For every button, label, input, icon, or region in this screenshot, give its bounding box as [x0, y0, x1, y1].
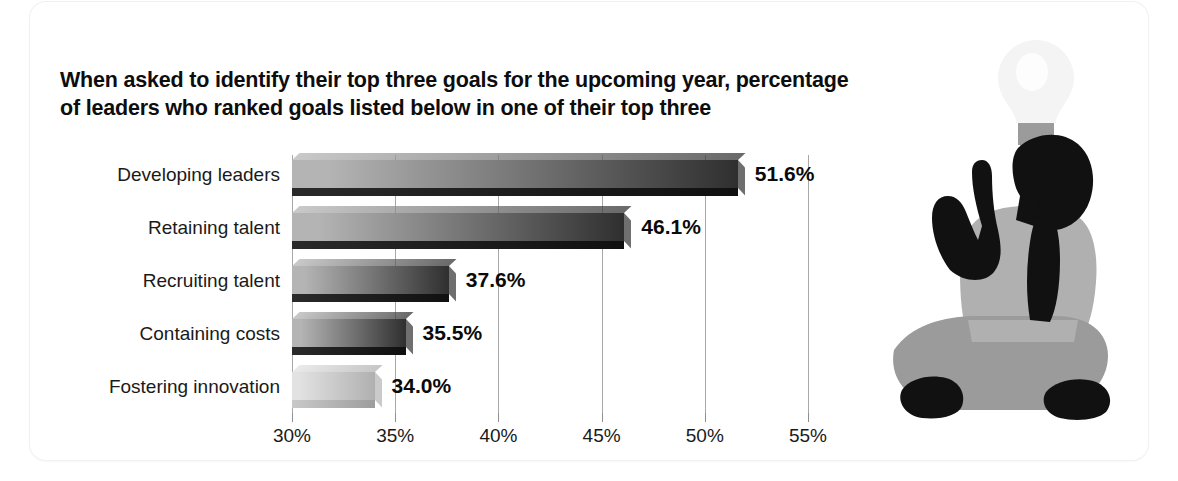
- bar-value-label: 37.6%: [466, 268, 526, 292]
- bar-top-face: [292, 259, 456, 266]
- bar-side-face: [738, 160, 745, 196]
- bar-chart: Developing leadersRetaining talentRecrui…: [0, 0, 880, 481]
- category-axis: Developing leadersRetaining talentRecrui…: [40, 0, 280, 481]
- bar-shadow: [292, 241, 624, 249]
- bar-shadow: [292, 400, 375, 408]
- chart-page: When asked to identify their top three g…: [0, 0, 1178, 481]
- bar-row: 35.5%: [292, 319, 808, 365]
- bar-face: [292, 372, 375, 400]
- bar-top-face: [292, 206, 632, 213]
- x-tick-label: 40%: [479, 425, 517, 447]
- bar-top-face: [292, 312, 413, 319]
- bar-value-label: 34.0%: [392, 374, 452, 398]
- bar-face: [292, 266, 449, 294]
- bar-side-face: [449, 266, 456, 302]
- x-tick-label: 30%: [273, 425, 311, 447]
- bar-shadow: [292, 347, 406, 355]
- x-tick-35: [395, 413, 396, 422]
- bar-row: 34.0%: [292, 372, 808, 418]
- bar-top-face: [292, 153, 745, 160]
- bar-face: [292, 160, 738, 188]
- bar-shadow: [292, 188, 738, 196]
- bar-value-label: 35.5%: [423, 321, 483, 345]
- bar-face: [292, 319, 406, 347]
- category-label-developing-leaders: Developing leaders: [117, 164, 280, 186]
- x-tick-label: 50%: [686, 425, 724, 447]
- x-tick-label: 45%: [583, 425, 621, 447]
- bar-row: 46.1%: [292, 213, 808, 259]
- bar-top-face: [292, 365, 382, 372]
- category-label-fostering-innovation: Fostering innovation: [109, 376, 280, 398]
- x-tick-30: [292, 413, 293, 422]
- bar-side-face: [406, 319, 413, 355]
- bar-retaining-talent: [292, 213, 624, 241]
- category-label-retaining-talent: Retaining talent: [148, 217, 280, 239]
- bar-containing-costs: [292, 319, 406, 347]
- bar-side-face: [624, 213, 631, 249]
- bar-side-face: [375, 372, 382, 408]
- x-tick-55: [808, 413, 809, 422]
- bar-value-label: 51.6%: [755, 162, 815, 186]
- category-label-containing-costs: Containing costs: [140, 323, 280, 345]
- x-tick-label: 35%: [376, 425, 414, 447]
- bar-value-label: 46.1%: [641, 215, 701, 239]
- bar-developing-leaders: [292, 160, 738, 188]
- bar-recruiting-talent: [292, 266, 449, 294]
- bar-shadow: [292, 294, 449, 302]
- seated-person-pointing-up-with-lightbulb-illustration: [850, 20, 1150, 460]
- x-tick-45: [602, 413, 603, 422]
- x-tick-40: [498, 413, 499, 422]
- seated-person-silhouette: [893, 135, 1110, 420]
- value-axis: 30%35%40%45%50%55%: [292, 413, 808, 453]
- bar-face: [292, 213, 624, 241]
- bar-row: 37.6%: [292, 266, 808, 312]
- bar-fostering-innovation: [292, 372, 375, 400]
- x-tick-50: [705, 413, 706, 422]
- bar-row: 51.6%: [292, 160, 808, 206]
- plot-area: 51.6%46.1%37.6%35.5%34.0%: [292, 155, 808, 413]
- gridline-55: [808, 155, 809, 413]
- x-tick-label: 55%: [789, 425, 827, 447]
- category-label-recruiting-talent: Recruiting talent: [143, 270, 280, 292]
